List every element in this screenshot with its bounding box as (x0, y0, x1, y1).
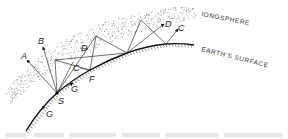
ionosphere-stipple-dot (28, 68, 29, 69)
ionosphere-stipple-dot (109, 36, 110, 37)
surface-hatch-mark (188, 45, 189, 48)
ionosphere-stipple-dot (178, 15, 179, 16)
ionosphere-stipple-dot (161, 24, 162, 25)
ionosphere-stipple-dot (186, 10, 187, 11)
label-g-backward: G (46, 109, 53, 119)
ionosphere-stipple-dot (17, 82, 18, 83)
ionosphere-stipple-dot (66, 39, 67, 40)
ionosphere-stipple-dot (106, 29, 107, 30)
ionosphere-stipple-dot (164, 11, 165, 12)
ionosphere-stipple-dot (188, 17, 189, 18)
ionosphere-stipple-dot (176, 21, 177, 22)
ionosphere-stipple-dot (20, 81, 21, 82)
ionosphere-stipple-dot (144, 18, 145, 19)
ionosphere-stipple-dot (185, 14, 186, 15)
ionosphere-stipple-dot (146, 13, 147, 14)
propagation-diagram: A B D C F G S G D C IONOSPHERE EARTH'S S… (0, 0, 288, 139)
ionosphere-stipple-dot (48, 51, 49, 52)
ionosphere-stipple-dot (159, 21, 160, 22)
ionosphere-stipple-dot (151, 18, 152, 19)
surface-hatch-mark (96, 67, 98, 70)
ionosphere-stipple-dot (21, 84, 22, 85)
ionosphere-stipple-dot (148, 20, 149, 21)
ionosphere-stipple-dot (114, 28, 115, 29)
ionosphere-stipple-dot (97, 47, 98, 48)
ionosphere-stipple-dot (90, 39, 91, 40)
ionosphere-stipple-dot (16, 80, 17, 81)
surface-hatch-mark (40, 114, 43, 116)
ionosphere-stipple-dot (33, 75, 34, 76)
ionosphere-stipple-dot (81, 39, 82, 40)
ionosphere-stipple-dot (137, 15, 138, 16)
ionosphere-stipple-dot (37, 64, 38, 65)
label-b: B (38, 36, 44, 46)
ionosphere-stipple-dot (134, 16, 135, 17)
ionosphere-stipple-dot (17, 80, 18, 81)
ionosphere-stipple-dot (141, 23, 142, 24)
ionosphere-stipple-dot (175, 8, 176, 9)
surface-hatch-mark (157, 46, 158, 49)
ionosphere-stipple-dot (168, 9, 169, 10)
ionosphere-stipple-dot (32, 64, 33, 65)
ionosphere-stipple-dot (183, 20, 184, 21)
ionosphere-stipple-dot (10, 87, 11, 88)
ionosphere-stipple-dot (75, 55, 76, 56)
ionosphere-stipple-dot (51, 57, 52, 58)
ionosphere-stipple-dot (184, 9, 185, 10)
ionosphere-stipple-dot (120, 33, 121, 34)
ionosphere-stipple-dot (63, 48, 64, 49)
ionosphere-stipple-dot (20, 87, 21, 88)
ionosphere-stipple-dot (157, 27, 158, 28)
ionosphere-stipple-dot (193, 11, 194, 12)
ionosphere-stipple-dot (61, 42, 62, 43)
ionosphere-stipple-dot (24, 81, 25, 82)
surface-hatch-mark (119, 57, 121, 60)
ionosphere-stipple-dot (34, 74, 35, 75)
ionosphere-stipple-dot (141, 28, 142, 29)
surface-hatch-mark (121, 56, 123, 59)
surface-hatch-mark (47, 105, 50, 107)
ionosphere-stipple-dot (188, 10, 189, 11)
ionosphere-stipple-dot (181, 14, 182, 15)
ionosphere-stipple-dot (160, 11, 161, 12)
ionosphere-stipple-dot (11, 96, 12, 97)
ionosphere-stipple-dot (94, 35, 95, 36)
ionosphere-stipple-dot (33, 74, 34, 75)
ionosphere-stipple-dot (62, 55, 63, 56)
ionosphere-stipple-dot (171, 17, 172, 18)
ionosphere-stipple-dot (26, 71, 27, 72)
ionosphere-stipple-dot (132, 20, 133, 21)
ionosphere-stipple-dot (31, 73, 32, 74)
ionosphere-stipple-dot (28, 75, 29, 76)
ionosphere-stipple-dot (24, 75, 25, 76)
ionosphere-stipple-dot (123, 31, 124, 32)
ionosphere-stipple-dot (158, 21, 159, 22)
ionosphere-stipple-dot (95, 47, 96, 48)
ionosphere-stipple-dot (122, 36, 123, 37)
ionosphere-stipple-dot (99, 28, 100, 29)
ionosphere-stipple-dot (61, 50, 62, 51)
ionosphere-stipple-dot (136, 26, 137, 27)
ionosphere-stipple-dot (150, 15, 151, 16)
ionosphere-stipple-dot (139, 21, 140, 22)
ionosphere-stipple-dot (114, 31, 115, 32)
ionosphere-stipple-dot (80, 36, 81, 37)
ionosphere-stipple-dot (20, 85, 21, 86)
ionosphere-stipple-dot (8, 94, 9, 95)
ionosphere-stipple-dot (16, 91, 17, 92)
surface-hatch-mark (85, 74, 87, 76)
ionosphere-stipple-dot (131, 33, 132, 34)
ionosphere-stipple-dot (72, 54, 73, 55)
ionosphere-stipple-dot (150, 13, 151, 14)
ionosphere-stipple-dot (45, 72, 46, 73)
ionosphere-stipple-dot (15, 92, 16, 93)
ionosphere-stipple-dot (46, 66, 47, 67)
ionosphere-stipple-dot (70, 43, 71, 44)
ionosphere-stipple-dot (113, 23, 114, 24)
ionosphere-stipple-dot (20, 82, 21, 83)
ionosphere-stipple-dot (33, 69, 34, 70)
ionosphere-stipple-dot (87, 39, 88, 40)
ionosphere-stipple-dot (121, 18, 122, 19)
ionosphere-stipple-dot (179, 17, 180, 18)
ionosphere-stipple-dot (173, 20, 174, 21)
